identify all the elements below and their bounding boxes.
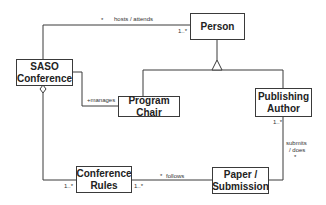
- class-person-label: Person: [201, 21, 235, 33]
- class-chair-label-line1: Program: [128, 95, 169, 107]
- submits-src-multiplicity: 1..*: [273, 119, 282, 126]
- hosts-attends-line: [43, 25, 190, 59]
- class-saso-label-line1: SASO: [30, 61, 58, 73]
- hosts-attends-dst-multiplicity: 1..*: [178, 28, 187, 35]
- class-rules-label-line2: Rules: [90, 180, 117, 192]
- submits-dst-multiplicity: *: [294, 154, 296, 161]
- follows-src-multiplicity: *: [160, 173, 162, 180]
- rules-left-multiplicity: 1..*: [64, 183, 73, 190]
- hosts-attends-src-multiplicity: *: [101, 17, 103, 24]
- class-person: Person: [190, 13, 245, 40]
- generalization-triangle-icon: [212, 60, 222, 70]
- class-author-label-line2: Author: [267, 103, 300, 115]
- hosts-attends-label: hosts / attends: [114, 16, 153, 23]
- rules-right-multiplicity: 1..*: [134, 183, 143, 190]
- manages-label: +manages: [87, 97, 115, 104]
- aggregation-line: [43, 93, 76, 180]
- follows-label: follows: [166, 173, 184, 180]
- submits-label-line2: / does: [289, 147, 305, 154]
- class-saso-label-line2: Conference: [17, 73, 72, 85]
- class-paper-submission: Paper / Submission: [212, 167, 269, 194]
- submits-label-line1: submits: [286, 140, 307, 147]
- class-paper-label-line1: Paper /: [224, 169, 257, 181]
- class-publishing-author: Publishing Author: [255, 88, 312, 117]
- class-paper-label-line2: Submission: [212, 181, 269, 193]
- class-author-label-line1: Publishing: [258, 91, 309, 103]
- aggregation-diamond-icon: [40, 85, 46, 93]
- class-saso-conference: SASO Conference: [16, 59, 73, 86]
- class-conference-rules: Conference Rules: [76, 166, 132, 193]
- class-program-chair: Program Chair: [118, 96, 180, 117]
- class-chair-label-line2: Chair: [136, 107, 162, 119]
- class-rules-label-line1: Conference: [77, 168, 132, 180]
